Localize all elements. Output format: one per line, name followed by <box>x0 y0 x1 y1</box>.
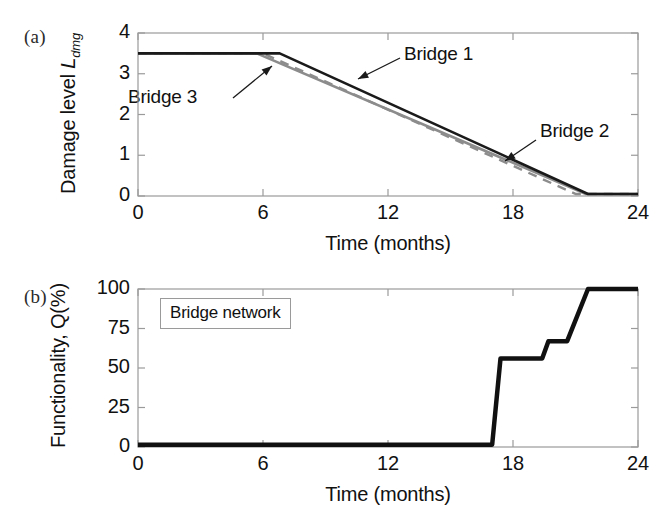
panel-a: (a) Damage level Ldmg 0 1 2 3 4 0 6 12 1… <box>0 0 670 262</box>
panel-b-plot <box>0 262 670 523</box>
panel-a-plot <box>0 0 670 262</box>
panel-b: (b) Functionality, Q(%) 0 25 50 75 100 0… <box>0 262 670 523</box>
figure-root: (a) Damage level Ldmg 0 1 2 3 4 0 6 12 1… <box>0 0 670 523</box>
